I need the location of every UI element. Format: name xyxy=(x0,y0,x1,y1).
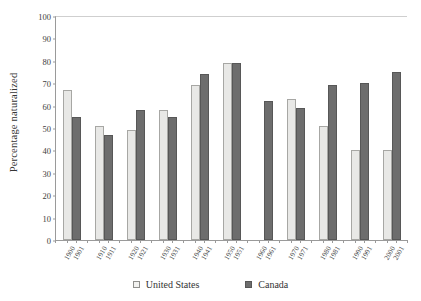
bar-united-states-1980 xyxy=(319,126,328,240)
x-axis-tick-mark xyxy=(67,240,68,243)
bar-united-states-1900 xyxy=(63,90,72,240)
bar-canada-2001 xyxy=(392,72,401,240)
y-axis-title: Percentage naturalized xyxy=(5,0,23,245)
x-axis-tick-mark xyxy=(172,240,173,243)
x-axis-group-separator xyxy=(151,240,152,243)
bar-united-states-1940 xyxy=(191,85,200,240)
x-axis-tick-mark xyxy=(291,240,292,243)
x-axis-tick-mark xyxy=(163,240,164,243)
x-axis-group-separator xyxy=(407,240,408,243)
x-axis-tick-mark xyxy=(396,240,397,243)
x-axis-group-separator xyxy=(279,240,280,243)
y-axis-tick-mark xyxy=(53,84,56,85)
y-axis-tick-mark xyxy=(53,17,56,18)
bar-united-states-1950 xyxy=(223,63,232,240)
y-axis-tick-mark xyxy=(53,129,56,130)
bar-canada-1991 xyxy=(360,83,369,240)
y-axis-tick-mark xyxy=(53,218,56,219)
plot-inner: 0102030405060708090100 xyxy=(56,17,407,240)
x-axis-tick-mark xyxy=(387,240,388,243)
x-axis-group-separator xyxy=(183,240,184,243)
y-axis-tick-mark xyxy=(53,61,56,62)
legend-swatch-icon xyxy=(245,281,252,288)
x-axis-tick-mark xyxy=(108,240,109,243)
x-axis-group-separator xyxy=(87,240,88,243)
y-axis-title-text: Percentage naturalized xyxy=(9,73,20,173)
bar-united-states-1930 xyxy=(159,110,168,240)
x-axis-group-separator xyxy=(343,240,344,243)
bar-canada-1971 xyxy=(296,108,305,240)
x-axis-group-separator xyxy=(247,240,248,243)
y-axis-tick-mark xyxy=(53,196,56,197)
legend-item-us[interactable]: United States xyxy=(133,279,200,290)
bar-canada-1921 xyxy=(136,110,145,240)
chart-legend: United StatesCanada xyxy=(0,279,421,290)
bar-canada-1941 xyxy=(200,74,209,240)
x-axis-group-separator xyxy=(119,240,120,243)
bar-canada-1981 xyxy=(328,85,337,240)
legend-swatch-icon xyxy=(133,281,140,288)
y-axis-tick-mark xyxy=(53,173,56,174)
y-axis-tick-mark xyxy=(53,106,56,107)
bar-united-states-2000 xyxy=(383,150,392,240)
x-axis-group-separator xyxy=(375,240,376,243)
x-axis-tick-mark xyxy=(268,240,269,243)
x-axis-group-separator xyxy=(311,240,312,243)
x-axis-tick-mark xyxy=(131,240,132,243)
x-axis-tick-mark xyxy=(204,240,205,243)
bar-united-states-1990 xyxy=(351,150,360,240)
x-axis-tick-mark xyxy=(236,240,237,243)
x-axis-tick-mark xyxy=(195,240,196,243)
x-axis-tick-mark xyxy=(364,240,365,243)
bar-canada-1911 xyxy=(104,135,113,240)
x-axis-tick-mark xyxy=(227,240,228,243)
legend-label: Canada xyxy=(258,279,288,290)
chart-figure: Percentage naturalized 01020304050607080… xyxy=(0,0,421,301)
legend-item-ca[interactable]: Canada xyxy=(245,279,288,290)
x-axis-tick-mark xyxy=(332,240,333,243)
x-axis-tick-mark xyxy=(355,240,356,243)
x-axis-group-separator xyxy=(55,240,56,243)
y-axis-tick-mark xyxy=(53,39,56,40)
plot-area: 0102030405060708090100 xyxy=(55,16,407,240)
y-axis-tick-mark xyxy=(53,151,56,152)
bar-canada-1901 xyxy=(72,117,81,240)
bar-united-states-1920 xyxy=(127,130,136,240)
x-axis-tick-mark xyxy=(76,240,77,243)
x-axis-tick-mark xyxy=(140,240,141,243)
x-axis-tick-mark xyxy=(259,240,260,243)
bar-canada-1961 xyxy=(264,101,273,240)
bar-canada-1951 xyxy=(232,63,241,240)
bar-united-states-1910 xyxy=(95,126,104,240)
x-axis-tick-mark xyxy=(300,240,301,243)
x-axis-group-separator xyxy=(215,240,216,243)
x-axis-tick-mark xyxy=(99,240,100,243)
legend-label: United States xyxy=(146,279,200,290)
bar-united-states-1970 xyxy=(287,99,296,240)
bar-canada-1931 xyxy=(168,117,177,240)
x-axis-tick-mark xyxy=(323,240,324,243)
